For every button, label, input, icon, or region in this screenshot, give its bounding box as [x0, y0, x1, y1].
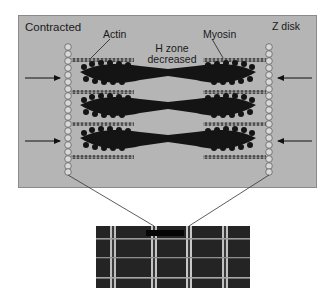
- z-disk-right: [266, 44, 273, 176]
- projection-line-right: [189, 175, 269, 226]
- sarcomere-diagram: [0, 0, 335, 305]
- projection-line-left: [68, 175, 154, 226]
- z-disk-left: [65, 44, 72, 176]
- myosin-bundles: [80, 60, 256, 151]
- actin-leader-line: [90, 39, 110, 59]
- electron-micrograph: [96, 226, 250, 288]
